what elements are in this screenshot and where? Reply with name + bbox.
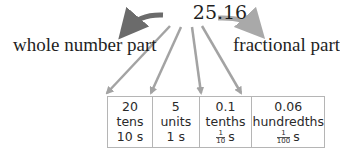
place-value: 20: [108, 99, 152, 114]
fraction-numerator: 1: [277, 130, 290, 137]
unit-suffix: s: [293, 129, 300, 144]
unit-suffix: s: [228, 129, 235, 144]
place-units: 5 units 1 s: [153, 97, 199, 148]
place-tenths: 0.1 tenths 1 10 s: [199, 97, 252, 148]
place-value: 0.1: [200, 99, 252, 114]
place-unit: 1 s: [153, 129, 198, 144]
place-hundredths: 0.06 hundredths 1 100 s: [252, 97, 325, 148]
fraction-denominator: 10: [216, 137, 225, 145]
place-name: hundredths: [252, 114, 324, 129]
place-name: tens: [108, 114, 152, 129]
place-value: 0.06: [252, 99, 324, 114]
place-unit: 1 100 s: [252, 129, 324, 145]
place-tens: 20 tens 10 s: [108, 97, 153, 148]
fraction-numerator: 1: [216, 130, 225, 137]
whole-part-arrow: [128, 15, 163, 28]
fraction: 1 100: [277, 130, 290, 145]
fraction-denominator: 100: [277, 137, 290, 145]
fractional-part-label: fractional part: [233, 34, 340, 56]
whole-number-part-label: whole number part: [13, 34, 157, 56]
tenths-arrow: [192, 27, 201, 93]
place-value: 5: [153, 99, 198, 114]
fraction: 1 10: [216, 130, 225, 145]
place-name: tenths: [200, 114, 252, 129]
place-name: units: [153, 114, 198, 129]
place-unit: 1 10 s: [200, 129, 252, 145]
place-unit: 10 s: [108, 129, 152, 144]
decimal-number: 25.16: [175, 1, 265, 23]
place-value-table: 20 tens 10 s 5 units 1 s 0.1 tenths 1 10…: [107, 96, 325, 148]
